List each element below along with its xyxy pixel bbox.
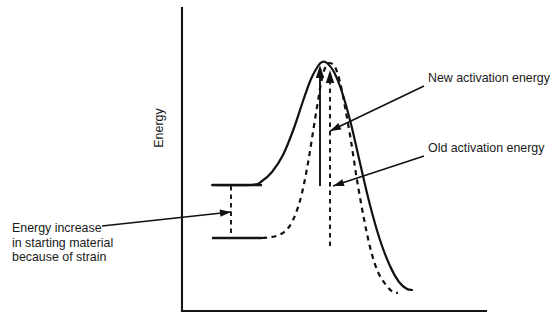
new-activation-energy-leader-line xyxy=(330,86,424,131)
new-activation-energy-leader-arrow-head xyxy=(330,123,341,131)
callout-leaders-group xyxy=(102,86,424,226)
energy-levels-group xyxy=(212,185,262,238)
old-activation-energy-leader-arrow-head xyxy=(333,179,345,186)
energy-increase-label-line-3: because of strain xyxy=(12,250,106,264)
axes-group: Energy xyxy=(152,8,486,311)
old-activation-energy-label: Old activation energy xyxy=(428,141,545,155)
reaction-curves-group xyxy=(212,62,412,293)
y-axis-label: Energy xyxy=(152,108,166,148)
new-pathway-curve xyxy=(212,62,412,290)
old-activation-energy-leader-line xyxy=(333,156,424,186)
energy-increase-leader-line xyxy=(102,212,231,226)
energy-increase-leader-arrow-head xyxy=(220,210,231,217)
energy-increase-label: Energy increase in starting material bec… xyxy=(12,221,117,264)
energy-diagram-figure: Energy Ne xyxy=(0,0,560,325)
energy-increase-label-line-2: in starting material xyxy=(12,236,113,250)
energy-profile-svg: Energy Ne xyxy=(0,0,560,325)
new-activation-energy-label: New activation energy xyxy=(428,71,551,85)
activation-measures-group xyxy=(316,65,334,246)
energy-increase-label-line-1: Energy increase xyxy=(12,221,102,235)
